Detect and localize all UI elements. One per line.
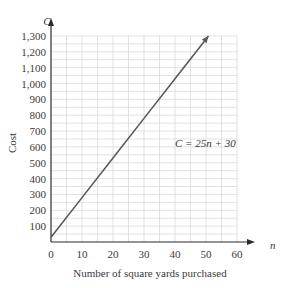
x-tick-label: 50 <box>201 248 213 260</box>
x-axis-variable: n <box>270 239 276 251</box>
y-tick-label: 1,000 <box>21 78 46 90</box>
cost-chart: 1002003004005006007008009001,0001,1001,2… <box>0 0 285 288</box>
x-tick-label: 20 <box>108 248 120 260</box>
y-tick-label: 900 <box>30 93 47 105</box>
equation-label: C = 25n + 30 <box>175 137 236 149</box>
x-tick-label: 0 <box>48 248 54 260</box>
x-tick-label: 40 <box>170 248 182 260</box>
y-tick-label: 800 <box>30 109 47 121</box>
x-tick-label: 10 <box>77 248 89 260</box>
x-axis-arrow-icon <box>247 239 255 245</box>
y-tick-label: 100 <box>30 220 47 232</box>
x-axis-label: Number of square yards purchased <box>73 267 227 279</box>
y-tick-label: 300 <box>30 188 47 200</box>
x-tick-label: 30 <box>139 248 151 260</box>
y-tick-label: 1,100 <box>21 62 46 74</box>
y-axis-label: Cost <box>6 133 18 153</box>
y-tick-label: 1,300 <box>21 30 46 42</box>
x-tick-labels: 0102030405060 <box>48 248 243 260</box>
y-axis-variable: C <box>43 15 51 27</box>
x-tick-label: 60 <box>232 248 244 260</box>
y-tick-label: 400 <box>30 173 47 185</box>
y-tick-label: 1,200 <box>21 46 46 58</box>
y-tick-label: 700 <box>30 125 47 137</box>
y-tick-label: 200 <box>30 204 47 216</box>
y-tick-labels: 1002003004005006007008009001,0001,1001,2… <box>21 30 46 232</box>
y-tick-label: 500 <box>30 157 47 169</box>
y-tick-label: 600 <box>30 141 47 153</box>
